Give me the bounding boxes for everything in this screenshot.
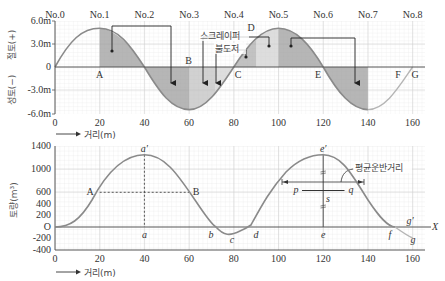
y-tick: 3.0m (31, 38, 52, 49)
y-tick: -6.0m (27, 108, 51, 119)
x-tick: 60 (184, 117, 194, 128)
station-label: No.2 (135, 9, 155, 20)
x-tick: 0 (53, 117, 58, 128)
y-tick: 400 (36, 198, 51, 209)
x-tick: 120 (316, 253, 331, 264)
x-tick: 140 (360, 117, 375, 128)
point-label: A (96, 69, 104, 80)
station-label: No.3 (179, 9, 199, 20)
bottom-grid (55, 146, 425, 250)
station-label: No.7 (358, 9, 378, 20)
scraper-label: 스크레이퍼 (200, 31, 240, 41)
point-label: e (321, 229, 326, 240)
point-label: g (411, 234, 416, 245)
point-label: E (315, 69, 321, 80)
x-tick: 80 (229, 253, 239, 264)
x-axis-letter: X (431, 221, 439, 232)
y-tick: 1400 (31, 140, 51, 151)
point-label: c (230, 234, 235, 245)
point-label: F (395, 69, 401, 80)
point-label: s (326, 193, 330, 204)
point-label: D (247, 22, 254, 33)
y-tick: 1000 (31, 163, 51, 174)
station-label: No.8 (403, 9, 423, 20)
mass-curve-chart: 평균운반거리 1400 1000 600 400 200 O -200 -400… (8, 140, 439, 278)
arrow-right-icon (76, 132, 81, 137)
distance-label: 거리(m) (84, 268, 116, 278)
station-labels: No.0 No.1 No.2 No.3 No.4 No.5 No.6 No.7 … (45, 9, 422, 20)
bottom-x-ticks: 0 20 40 60 80 100 120 140 160 (53, 253, 421, 264)
point-label: B (193, 186, 200, 197)
distance-label: 거리(m) (84, 130, 116, 140)
point-label: G (411, 69, 418, 80)
top-x-ticks: 0 20 40 60 80 100 120 140 160 (53, 117, 421, 128)
cut-fill-chart: 스크레이퍼 불도저 No.0 No.1 No.2 No.3 No.4 No.5 … (6, 9, 425, 140)
x-tick: 20 (95, 117, 105, 128)
top-x-label: 거리(m) (56, 130, 116, 140)
station-label: No.5 (269, 9, 289, 20)
x-tick: 120 (316, 117, 331, 128)
x-tick: 40 (139, 117, 149, 128)
top-y-ticks: 6.0m 3.0m 0 -3.0m -6.0m (27, 15, 51, 119)
y-tick: -3.0m (27, 84, 51, 95)
point-label: p (293, 184, 299, 195)
x-tick: 160 (405, 253, 420, 264)
x-tick: 20 (95, 253, 105, 264)
point-label: b (209, 229, 214, 240)
x-tick: 160 (405, 117, 420, 128)
point-label: C (235, 69, 242, 80)
bottom-x-label: 거리(m) (56, 268, 116, 278)
y-tick: 6.0m (31, 15, 52, 26)
x-tick: 0 (53, 253, 58, 264)
point-label: e′ (320, 143, 327, 154)
bulldozer-label: 불도저 (215, 44, 239, 54)
station-label: No.4 (224, 9, 244, 20)
station-label: No.1 (90, 9, 110, 20)
point-label: A (86, 186, 94, 197)
x-tick: 100 (271, 117, 286, 128)
y-tick: 200 (36, 209, 51, 220)
point-label: g′ (406, 215, 414, 226)
x-tick: 80 (229, 117, 239, 128)
volume-axis-label: 토량(m³) (8, 182, 19, 217)
point-label: a (142, 229, 147, 240)
x-tick: 60 (184, 253, 194, 264)
y-tick: 0 (46, 61, 51, 72)
cut-axis-label: 절토(+) (6, 30, 17, 61)
point-label: B (185, 55, 192, 66)
y-tick: -200 (33, 232, 51, 243)
diagram-canvas: 스크레이퍼 불도저 No.0 No.1 No.2 No.3 No.4 No.5 … (0, 0, 445, 281)
x-tick: 140 (360, 253, 375, 264)
x-tick: 100 (271, 253, 286, 264)
mean-haul-distance-label: 평균운반거리 (355, 163, 403, 173)
y-tick: O (44, 221, 51, 232)
fill-axis-label: 성토(−) (7, 75, 17, 106)
y-tick: 600 (36, 186, 51, 197)
point-label: q (349, 184, 354, 195)
arrow-right-icon (76, 270, 81, 275)
bottom-y-ticks: 1400 1000 600 400 200 O -200 -400 (31, 140, 51, 255)
x-tick: 40 (139, 253, 149, 264)
point-label: a′ (141, 143, 149, 154)
y-tick: -400 (33, 244, 51, 255)
station-label: No.6 (313, 9, 333, 20)
